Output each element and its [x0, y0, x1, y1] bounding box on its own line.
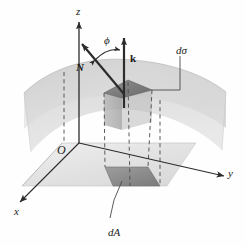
- y-axis-label: y: [228, 168, 233, 179]
- vertical-vector-label-k: k: [130, 53, 136, 64]
- angle-arc-phi: [95, 49, 120, 60]
- normal-vector-label-N: N: [76, 62, 84, 73]
- surface-element-label-dsigma: dσ: [176, 45, 187, 56]
- figure-canvas: z y x O N k ϕ dσ dA: [0, 0, 246, 246]
- diagram-svg: [0, 0, 246, 246]
- x-axis-label: x: [14, 206, 19, 217]
- z-axis-label: z: [76, 6, 80, 17]
- origin-label: O: [57, 144, 66, 156]
- leader-dA: [110, 181, 122, 218]
- base-element-label-dA: dA: [108, 227, 120, 238]
- angle-label-phi: ϕ: [104, 35, 110, 46]
